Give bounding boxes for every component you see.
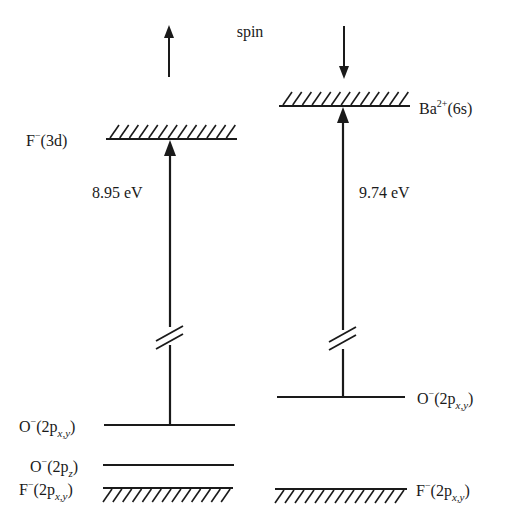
transition-arrow-left-icon bbox=[156, 140, 183, 425]
label-ba-6s: Ba2+(6s) bbox=[419, 98, 472, 118]
spin-down-arrow-icon bbox=[339, 26, 349, 79]
energy-label-right: 9.74 eV bbox=[359, 184, 410, 201]
transition-arrow-right-icon bbox=[329, 107, 356, 398]
label-f-3d: F−(3d) bbox=[26, 130, 67, 150]
label-o-2pxy-right: O−(2px,y) bbox=[417, 388, 473, 411]
label-f-2pxy-left: F−(2px,y) bbox=[19, 479, 73, 502]
energy-label-left: 8.95 eV bbox=[92, 184, 143, 201]
spin-up-arrow-icon bbox=[164, 25, 174, 77]
level-f-3d bbox=[106, 125, 237, 139]
label-f-2pxy-right: F−(2px,y) bbox=[416, 480, 470, 503]
label-o-2pxy-left: O−(2px,y) bbox=[19, 416, 75, 439]
level-f-2pxy-left bbox=[103, 488, 233, 502]
energy-level-diagram: spin F−(3d) 8.95 eV O−(2px,y) O−(2pz) F−… bbox=[0, 0, 512, 530]
level-f-2pxy-right bbox=[275, 489, 407, 503]
label-o-2pz: O−(2pz) bbox=[30, 456, 78, 479]
spin-label: spin bbox=[237, 23, 264, 41]
level-ba-6s bbox=[279, 92, 410, 106]
